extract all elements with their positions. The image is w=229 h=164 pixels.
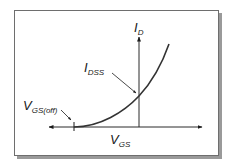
idss-label: IDSS [84, 59, 104, 77]
vgs-off-pointer-arrow [61, 110, 71, 120]
vgs-off-label: VGS(off) [23, 97, 57, 115]
id-axis-label: ID [134, 19, 143, 37]
vgs-axis-label: VGS [110, 131, 130, 149]
idss-pointer-arrow [112, 73, 136, 93]
transfer-curve [74, 44, 169, 127]
